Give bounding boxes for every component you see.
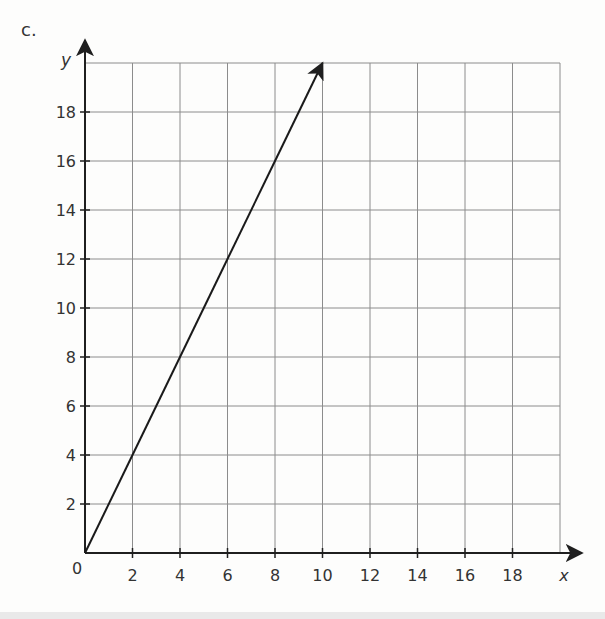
y-tick-label: 10 (56, 299, 76, 318)
y-tick-label: 18 (56, 103, 76, 122)
x-tick-label: 2 (127, 566, 137, 585)
line-chart: 24681012141618246810121416180xy (0, 0, 605, 619)
x-tick-label: 10 (312, 566, 332, 585)
x-tick-label: 12 (360, 566, 380, 585)
x-tick-label: 18 (502, 566, 522, 585)
x-tick-label: 16 (455, 566, 475, 585)
bottom-band (0, 612, 605, 619)
y-axis-label: y (60, 50, 72, 70)
y-tick-label: 14 (56, 201, 76, 220)
y-tick-label: 12 (56, 250, 76, 269)
y-tick-label: 2 (66, 495, 76, 514)
x-tick-label: 4 (175, 566, 185, 585)
x-tick-label: 14 (407, 566, 427, 585)
y-tick-label: 16 (56, 152, 76, 171)
y-tick-label: 6 (66, 397, 76, 416)
x-tick-label: 6 (222, 566, 232, 585)
y-tick-label: 8 (66, 348, 76, 367)
y-tick-label: 4 (66, 446, 76, 465)
x-tick-label: 8 (270, 566, 280, 585)
x-axis-label: x (558, 566, 569, 585)
origin-label: 0 (72, 559, 82, 578)
